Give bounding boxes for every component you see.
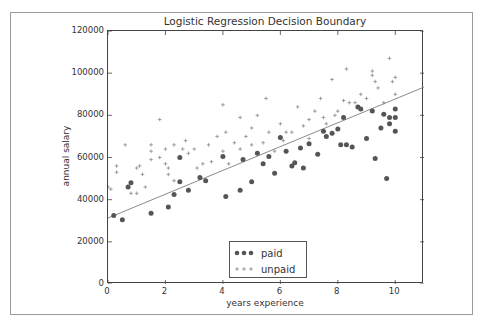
unpaid-point <box>359 92 363 96</box>
paid-point <box>341 115 346 120</box>
paid-point <box>324 134 329 139</box>
unpaid-point <box>207 143 211 147</box>
unpaid-point <box>181 147 185 151</box>
unpaid-point <box>221 103 225 107</box>
y-tick-label: 0 <box>99 278 104 288</box>
paid-point <box>393 129 398 134</box>
paid-point <box>373 156 378 161</box>
unpaid-point <box>250 126 254 130</box>
unpaid-point <box>238 116 242 120</box>
x-tick-label: 10 <box>389 286 400 296</box>
paid-point <box>172 192 177 197</box>
unpaid-point <box>138 164 142 168</box>
paid-point <box>292 160 297 165</box>
unpaid-point <box>370 73 374 77</box>
paid-point <box>120 217 125 222</box>
paid-point <box>321 129 326 134</box>
unpaid-point <box>167 173 171 177</box>
unpaid-point <box>348 101 352 105</box>
paid-point <box>370 109 375 114</box>
paid-point <box>272 171 277 176</box>
legend-item-unpaid: unpaid <box>230 262 295 276</box>
unpaid-point <box>172 143 176 147</box>
y-tick-label: 120000 <box>72 25 104 35</box>
unpaid-point <box>307 137 311 141</box>
paid-point <box>387 121 392 126</box>
paid-point <box>177 179 182 184</box>
paid-point <box>378 125 383 130</box>
unpaid-point <box>325 122 329 126</box>
unpaid-point <box>264 97 268 101</box>
unpaid-point <box>158 118 162 122</box>
unpaid-point <box>302 124 306 128</box>
unpaid-point <box>227 162 231 166</box>
unpaid-point <box>342 99 346 103</box>
paid-point <box>315 152 320 157</box>
unpaid-point <box>224 130 228 134</box>
paid-point <box>128 180 133 185</box>
y-tick-label: 40000 <box>77 194 104 204</box>
unpaid-point <box>393 92 397 96</box>
paid-point <box>284 149 289 154</box>
unpaid-point <box>370 69 374 73</box>
unpaid-point <box>144 185 148 189</box>
paid-marker-icon <box>230 246 258 260</box>
paid-point <box>358 107 363 112</box>
paid-point <box>249 179 254 184</box>
chart-title: Logistic Regression Decision Boundary <box>107 15 423 27</box>
unpaid-point <box>215 135 219 139</box>
unpaid-point <box>376 86 380 90</box>
paid-point <box>197 175 202 180</box>
paid-point <box>384 176 389 181</box>
unpaid-point <box>164 162 168 166</box>
paid-point <box>393 115 398 120</box>
unpaid-point <box>135 192 139 196</box>
paid-point <box>149 211 154 216</box>
paid-point <box>186 188 191 193</box>
paid-point <box>223 194 228 199</box>
paid-point <box>307 141 312 146</box>
paid-point <box>350 144 355 149</box>
y-axis-label: annual salary <box>61 126 71 187</box>
decision-boundary-line <box>108 87 424 218</box>
unpaid-point <box>333 114 337 118</box>
unpaid-point <box>250 143 254 147</box>
legend-label: paid <box>261 248 283 259</box>
unpaid-point <box>319 97 323 101</box>
unpaid-point <box>149 158 153 162</box>
x-axis-label: years experience <box>107 298 423 308</box>
paid-point <box>330 131 335 136</box>
unpaid-point <box>149 143 153 147</box>
paid-point <box>393 107 398 112</box>
unpaid-point <box>307 118 311 122</box>
unpaid-point <box>284 130 288 134</box>
x-tick-label: 2 <box>162 286 167 296</box>
unpaid-point <box>388 57 392 61</box>
unpaid-point <box>135 166 139 170</box>
unpaid-point <box>261 141 265 145</box>
paid-point <box>166 205 171 210</box>
unpaid-point <box>256 114 260 118</box>
unpaid-point <box>290 130 294 134</box>
paid-point <box>298 146 303 151</box>
unpaid-point <box>149 149 153 153</box>
unpaid-point <box>345 67 349 71</box>
unpaid-point <box>115 170 119 174</box>
unpaid-point <box>141 173 145 177</box>
unpaid-point <box>123 143 127 147</box>
paid-point <box>301 166 306 171</box>
paid-point <box>266 154 271 159</box>
unpaid-point <box>108 185 110 189</box>
unpaid-point <box>184 139 188 143</box>
paid-point <box>387 115 392 120</box>
paid-point <box>126 185 131 190</box>
unpaid-point <box>313 109 317 113</box>
paid-point <box>241 157 246 162</box>
paid-point <box>111 213 116 218</box>
unpaid-point <box>221 149 225 153</box>
paid-point <box>344 142 349 147</box>
unpaid-point <box>393 76 397 80</box>
y-tick-label: 100000 <box>72 67 104 77</box>
unpaid-point <box>129 192 133 196</box>
x-tick-label: 0 <box>104 286 109 296</box>
